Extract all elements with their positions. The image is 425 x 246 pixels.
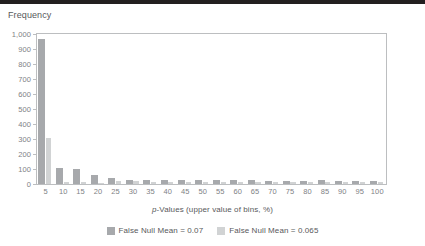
- bar: [168, 182, 173, 184]
- bar-group: [124, 34, 141, 184]
- bar-group: [281, 34, 298, 184]
- bar-group: [316, 34, 333, 184]
- bar: [360, 182, 365, 184]
- bar: [370, 181, 377, 184]
- bar-group: [299, 34, 316, 184]
- legend-swatch-icon: [217, 227, 225, 235]
- x-axis-tick-label: 15: [76, 187, 85, 196]
- bar: [64, 182, 69, 184]
- x-axis-tick-label: 55: [216, 187, 225, 196]
- bar: [126, 180, 133, 185]
- bar: [255, 182, 260, 184]
- bar: [300, 181, 307, 184]
- bar-group: [246, 34, 263, 184]
- chart-title: Frequency: [8, 10, 51, 20]
- bar: [143, 180, 150, 184]
- bar: [343, 182, 348, 184]
- x-axis-tick-label: 75: [286, 187, 295, 196]
- bar: [38, 39, 45, 184]
- bar-group: [264, 34, 281, 184]
- bar-group: [89, 34, 106, 184]
- x-axis-tick-label: 85: [321, 187, 330, 196]
- x-axis-tick-label: 50: [198, 187, 207, 196]
- x-axis-tick-label: 20: [94, 187, 103, 196]
- bar: [98, 183, 103, 185]
- legend-swatch-icon: [107, 227, 115, 235]
- bar: [178, 180, 185, 184]
- bar-group: [177, 34, 194, 184]
- bar: [116, 181, 121, 184]
- bar-group: [72, 34, 89, 184]
- legend-item[interactable]: False Null Mean = 0.07: [107, 226, 204, 235]
- bar: [248, 180, 255, 185]
- top-divider-rule: [0, 0, 425, 4]
- x-axis-tick-label: 70: [268, 187, 277, 196]
- bar-group: [369, 34, 386, 184]
- x-axis-tick-label: 40: [164, 187, 173, 196]
- y-axis-tick-label: 600: [18, 90, 31, 99]
- y-axis-tick-label: 0: [27, 180, 31, 189]
- chart-legend: False Null Mean = 0.07False Null Mean = …: [0, 226, 425, 235]
- bar: [91, 175, 98, 184]
- bar: [335, 181, 342, 184]
- x-axis-tick-label: 5: [44, 187, 48, 196]
- bar-group: [351, 34, 368, 184]
- x-axis-label: p-Values (upper value of bins, %): [0, 205, 425, 214]
- bar: [151, 182, 156, 184]
- y-axis-tick-label: 300: [18, 135, 31, 144]
- x-axis-tick-label: 30: [129, 187, 138, 196]
- bar: [318, 180, 325, 185]
- bar-group: [54, 34, 71, 184]
- bar: [283, 181, 290, 184]
- y-axis-tick-label: 400: [18, 120, 31, 129]
- bar: [133, 181, 138, 184]
- x-axis-tick-label: 35: [146, 187, 155, 196]
- y-axis-tick-label: 800: [18, 60, 31, 69]
- bar-group: [159, 34, 176, 184]
- y-axis-tick-label: 900: [18, 45, 31, 54]
- x-axis-tick-label: 60: [233, 187, 242, 196]
- bar: [378, 182, 383, 184]
- bar-group: [334, 34, 351, 184]
- y-axis-tick-label: 700: [18, 75, 31, 84]
- bar: [352, 181, 359, 184]
- bar: [213, 180, 220, 184]
- bar: [238, 182, 243, 184]
- x-axis-tick-label: 25: [111, 187, 120, 196]
- bar: [203, 182, 208, 184]
- legend-item-label: False Null Mean = 0.07: [119, 226, 204, 235]
- y-axis-tick-label: 200: [18, 150, 31, 159]
- x-axis-tick-label: 95: [356, 187, 365, 196]
- bar: [230, 180, 237, 184]
- bar: [325, 182, 330, 184]
- bar: [108, 178, 115, 184]
- x-axis-tick-label: 100: [371, 187, 384, 196]
- bar-group: [212, 34, 229, 184]
- y-axis-tick-label: 100: [18, 165, 31, 174]
- bar: [46, 138, 51, 184]
- y-axis-tick-label: 500: [18, 105, 31, 114]
- x-axis: 5101520253035404550556065707580859095100: [37, 187, 386, 199]
- bar: [81, 182, 86, 184]
- x-axis-label-rest: -Values (upper value of bins, %): [157, 205, 273, 214]
- bar: [273, 182, 278, 184]
- bar: [308, 182, 313, 184]
- bar: [56, 168, 63, 185]
- x-axis-tick-label: 65: [251, 187, 260, 196]
- bar-group: [107, 34, 124, 184]
- bars-layer: [37, 34, 386, 184]
- bar: [161, 180, 168, 184]
- bar: [186, 182, 191, 184]
- y-axis: 1,0009008007006005004003002001000: [0, 33, 36, 185]
- legend-item-label: False Null Mean = 0.065: [229, 226, 318, 235]
- x-axis-tick-label: 80: [303, 187, 312, 196]
- x-axis-tick-label: 10: [59, 187, 68, 196]
- bar-group: [194, 34, 211, 184]
- bar: [221, 182, 226, 184]
- bar-group: [229, 34, 246, 184]
- bar: [73, 169, 80, 184]
- legend-item[interactable]: False Null Mean = 0.065: [217, 226, 318, 235]
- x-axis-tick-label: 45: [181, 187, 190, 196]
- y-axis-tick-label: 1,000: [12, 30, 31, 39]
- bar-group: [142, 34, 159, 184]
